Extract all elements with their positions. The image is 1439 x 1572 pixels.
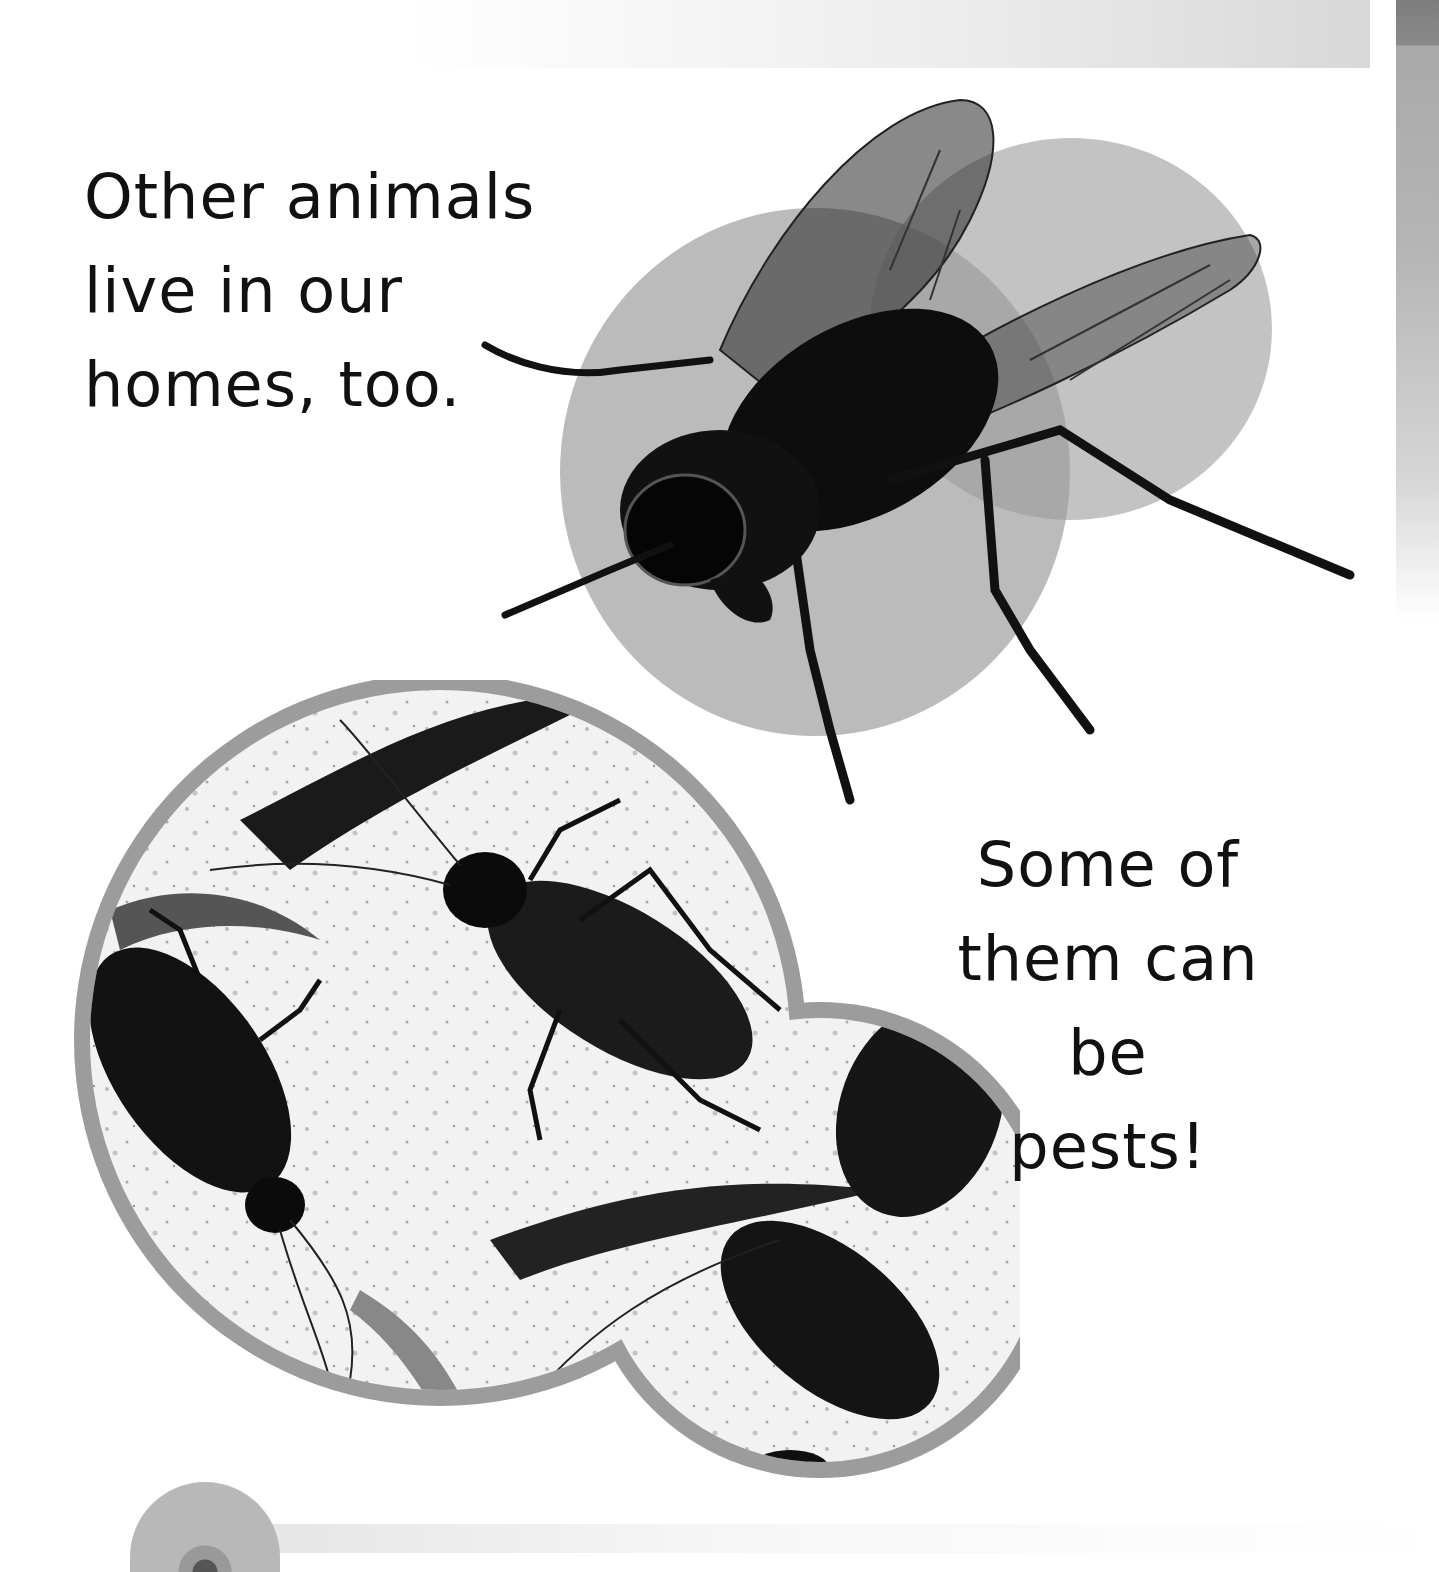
top-gradient-band: [0, 0, 1370, 68]
text-line: live in our: [84, 244, 535, 338]
page-text-intro: Other animals live in our homes, too.: [84, 150, 535, 432]
cockroaches-photo: [60, 680, 1020, 1480]
eye-thumbnail-icon: [130, 1482, 280, 1572]
page-text-pests: Some of them can be pests!: [908, 818, 1308, 1194]
text-line: Other animals: [84, 150, 535, 244]
page-edge-tab: [1396, 0, 1439, 620]
text-line: pests!: [908, 1100, 1308, 1194]
bottom-gradient-band: [270, 1524, 1439, 1553]
text-line: them can be: [908, 912, 1308, 1100]
text-line: homes, too.: [84, 338, 535, 432]
text-line: Some of: [908, 818, 1308, 912]
